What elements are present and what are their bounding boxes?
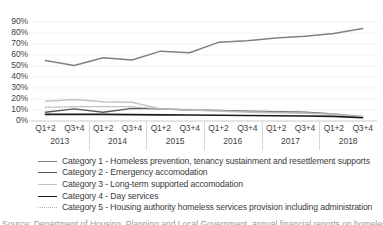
x-tick-label: Q3+4	[348, 123, 377, 134]
y-tick-label: 30%	[11, 83, 28, 92]
series-line-4	[45, 114, 362, 117]
y-tick-label: 10%	[11, 105, 28, 114]
x-axis-group-label: 2014	[89, 136, 147, 147]
y-tick-label: 80%	[11, 28, 28, 37]
chart-legend: Category 1 - Homeless prevention, tenanc…	[38, 155, 383, 213]
plot-area	[31, 0, 377, 126]
legend-label: Category 3 - Long-term supported accomod…	[62, 179, 243, 189]
x-axis-group-divider	[319, 122, 320, 150]
legend-line-swatch	[38, 167, 57, 177]
legend-line-swatch	[38, 202, 57, 212]
y-axis: 0%10%20%30%40%50%60%70%80%90%	[0, 0, 30, 126]
legend-label: Category 2 - Emergency accomodation	[62, 167, 208, 177]
x-axis-group-divider	[89, 122, 90, 150]
legend-line-swatch	[38, 156, 57, 166]
legend-label: Category 5 - Housing authority homeless …	[62, 202, 372, 212]
legend-line-swatch	[38, 179, 57, 189]
x-tick-label: Q1+2	[319, 123, 348, 134]
x-tick-label: Q1+2	[204, 123, 233, 134]
plot-region: 0%10%20%30%40%50%60%70%80%90%	[0, 0, 383, 126]
x-axis-group-label: 2016	[204, 136, 262, 147]
y-tick-label: 90%	[11, 17, 28, 26]
y-tick-label: 60%	[11, 50, 28, 59]
x-tick-label: Q3+4	[291, 123, 320, 134]
x-axis: Q1+2Q3+4Q1+2Q3+4Q1+2Q3+4Q1+2Q3+4Q1+2Q3+4…	[31, 122, 377, 154]
legend-label: Category 1 - Homeless prevention, tenanc…	[62, 156, 370, 166]
x-axis-group-label: 2013	[31, 136, 89, 147]
legend-item-3[interactable]: Category 3 - Long-term supported accomod…	[38, 178, 383, 190]
series-line-1	[45, 29, 362, 66]
legend-item-4[interactable]: Category 4 - Day services	[38, 190, 383, 202]
x-tick-label: Q3+4	[118, 123, 147, 134]
y-tick-label: 50%	[11, 61, 28, 70]
y-tick-label: 0%	[16, 116, 28, 125]
x-tick-label: Q3+4	[60, 123, 89, 134]
x-axis-group-label: 2018	[319, 136, 377, 147]
legend-label: Category 4 - Day services	[62, 191, 158, 201]
x-tick-label: Q1+2	[31, 123, 60, 134]
line-chart: 0%10%20%30%40%50%60%70%80%90% Q1+2Q3+4Q1…	[0, 0, 383, 225]
x-axis-group-divider	[146, 122, 147, 150]
x-tick-label: Q3+4	[175, 123, 204, 134]
y-tick-label: 20%	[11, 94, 28, 103]
series-canvas	[31, 0, 377, 126]
x-axis-group-divider	[262, 122, 263, 150]
legend-item-2[interactable]: Category 2 - Emergency accomodation	[38, 167, 383, 179]
y-tick-label: 40%	[11, 72, 28, 81]
legend-item-1[interactable]: Category 1 - Homeless prevention, tenanc…	[38, 155, 383, 167]
x-tick-label: Q1+2	[262, 123, 291, 134]
x-tick-label: Q3+4	[233, 123, 262, 134]
x-tick-label: Q1+2	[146, 123, 175, 134]
x-axis-group-divider	[204, 122, 205, 150]
legend-item-5[interactable]: Category 5 - Housing authority homeless …	[38, 201, 383, 213]
legend-line-swatch	[38, 191, 57, 201]
x-axis-group-label: 2015	[146, 136, 204, 147]
x-axis-group-label: 2017	[262, 136, 320, 147]
source-caption: Source: Department of Housing, Planning …	[2, 219, 383, 225]
y-tick-label: 70%	[11, 39, 28, 48]
x-tick-label: Q1+2	[89, 123, 118, 134]
